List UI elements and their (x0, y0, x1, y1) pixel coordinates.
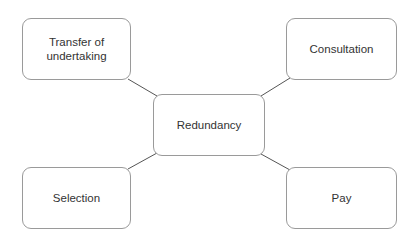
edge-redundancy-pay (261, 154, 290, 170)
edge-redundancy-consultation (261, 78, 290, 96)
node-selection: Selection (22, 167, 131, 229)
node-label: Pay (332, 191, 352, 205)
node-label: Consultation (310, 42, 374, 56)
node-redundancy-center: Redundancy (153, 94, 265, 156)
edge-redundancy-selection (128, 153, 157, 169)
node-label: Selection (53, 191, 100, 205)
node-label: Transfer of undertaking (37, 35, 117, 63)
node-label: Redundancy (177, 118, 242, 132)
node-transfer-of-undertaking: Transfer of undertaking (22, 18, 131, 80)
node-pay: Pay (286, 167, 397, 229)
edge-redundancy-transfer (128, 79, 157, 96)
node-consultation: Consultation (286, 18, 397, 80)
